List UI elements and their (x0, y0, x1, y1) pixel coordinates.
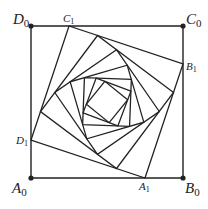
square-5 (83, 78, 132, 127)
label-a1: A1 (138, 180, 150, 194)
label-d0: D0 (12, 11, 30, 29)
label-b0: B0 (185, 180, 200, 198)
label-c0: C0 (186, 11, 202, 29)
corner-dots (28, 23, 185, 180)
square-1 (31, 26, 183, 178)
label-d1: D1 (15, 134, 28, 148)
square-0 (31, 26, 183, 178)
square-3 (55, 50, 160, 155)
square-4 (70, 65, 144, 139)
nested-squares-diagram: D0C0A0B0C1B1D1A1 (0, 0, 208, 209)
vertex-dot-a0 (28, 175, 33, 180)
label-c1: C1 (63, 12, 74, 26)
vertex-dot-c0 (180, 23, 185, 28)
label-b1: B1 (186, 60, 197, 74)
square-6 (83, 78, 131, 126)
square-2 (41, 36, 174, 169)
squares-group (31, 26, 183, 178)
label-a0: A0 (11, 180, 27, 198)
